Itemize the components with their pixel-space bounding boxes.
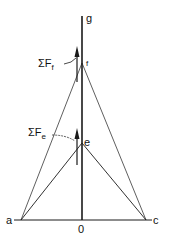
label-f: f bbox=[86, 59, 89, 68]
label-sum-force-e: ΣFe bbox=[28, 126, 47, 141]
member-ae bbox=[21, 143, 82, 220]
leader-line-f bbox=[64, 58, 76, 64]
member-fc bbox=[82, 63, 146, 220]
label-g: g bbox=[86, 12, 92, 24]
sum-force-f-main: ΣF bbox=[38, 57, 52, 69]
label-sum-force-f: ΣFf bbox=[38, 57, 55, 72]
member-af bbox=[21, 63, 82, 220]
label-c: c bbox=[153, 214, 159, 226]
label-e: e bbox=[84, 136, 90, 148]
leader-line-e bbox=[52, 135, 75, 141]
member-ec bbox=[82, 143, 146, 220]
sum-force-f-sub: f bbox=[52, 63, 55, 72]
label-o: 0 bbox=[78, 223, 84, 235]
sum-force-e-sub: e bbox=[42, 132, 47, 141]
label-a: a bbox=[6, 214, 13, 226]
force-arrow-f bbox=[75, 46, 80, 82]
force-diagram: g f e a c 0 ΣFf ΣFe bbox=[0, 0, 169, 243]
sum-force-e-main: ΣF bbox=[28, 126, 42, 138]
